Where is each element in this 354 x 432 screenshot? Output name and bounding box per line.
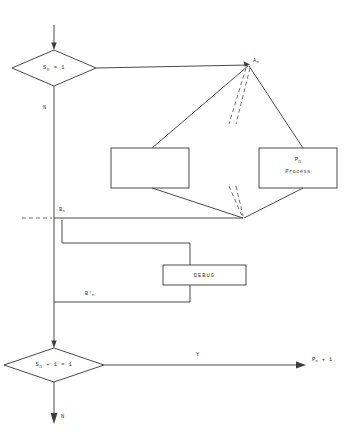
edge-debug-to-bn-prime [54,285,190,302]
branch-label-bottom-no: N [61,415,65,420]
edge-an-to-empty-box [152,66,248,148]
flowchart-canvas: Sn = 1 N An Pn Process Bn DEBUG B'n Sn +… [0,0,354,432]
edge-empty-box-to-bn [152,188,243,218]
debug-box-label: DEBUG [163,272,246,279]
process-pn-label: Pn Process [259,155,337,177]
edge-bottom-no-exit [51,382,58,424]
entry-arrow [51,25,56,50]
edge-bn-to-debug [62,220,190,265]
junction-label-bn: Bn [59,208,65,213]
decision-top-label: Sn = 1 [0,65,108,72]
process-pn-line2: Process [259,167,337,177]
dashed-omitted-branches-lower [229,186,243,216]
edge-decision-top-to-an [96,61,250,68]
process-empty-shape [111,148,189,188]
edge-pn-box-to-bn [244,188,303,218]
branch-label-top-no: N [43,106,47,111]
branch-label-bottom-yes: Y [196,353,200,358]
junction-label-bn-prime: B'n [85,292,95,297]
junction-label-an: An [253,59,259,64]
decision-bottom-label: Sn + 1 = 1 [0,362,108,369]
edge-spine-to-decision-bottom [51,218,56,348]
edge-bottom-yes-to-pn1 [104,361,306,368]
terminal-label-pn-plus-1: Pn + 1 [312,358,332,363]
edge-an-to-pn-box [249,66,303,148]
dashed-omitted-branches-upper [229,68,250,124]
process-pn-line1: Pn [259,155,337,167]
